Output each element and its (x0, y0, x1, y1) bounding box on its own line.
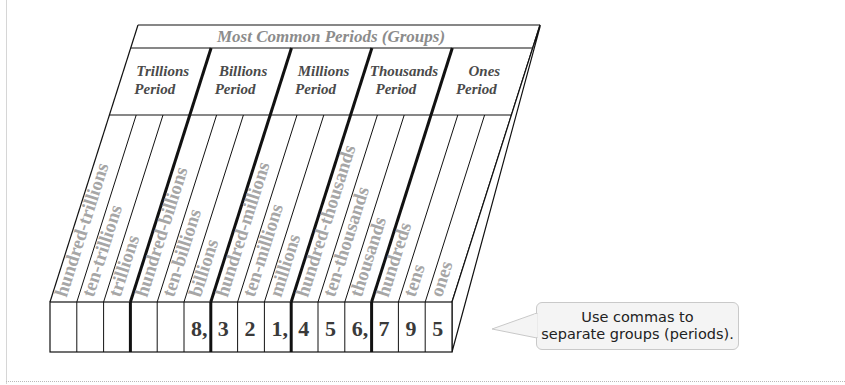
period-label: Millions (297, 63, 350, 79)
digit-cell: 7 (379, 316, 390, 341)
digit-cell: 4 (298, 316, 309, 341)
digit-cell: 6, (352, 316, 369, 341)
digit-cell: 3 (218, 316, 229, 341)
digit-cell: 1, (271, 316, 288, 341)
period-label: Period (376, 81, 417, 97)
digit-cell: 2 (245, 316, 256, 341)
period-label: Trillions (136, 63, 189, 79)
digit-cell: 8, (191, 316, 208, 341)
period-label: Ones (468, 63, 500, 79)
callout-box: Use commas to separate groups (periods). (536, 302, 739, 350)
digit-cell: 5 (325, 316, 336, 341)
period-label: Billions (218, 63, 268, 79)
period-label: Period (215, 81, 256, 97)
callout-pointer (490, 312, 540, 342)
callout-text: Use commas to separate groups (periods). (541, 309, 734, 343)
header-title: Most Common Periods (Groups) (216, 27, 445, 46)
digit-cell: 5 (432, 316, 443, 341)
period-label: Period (134, 81, 175, 97)
period-label: Thousands (370, 63, 439, 79)
digit-cell: 9 (405, 316, 416, 341)
period-label: Period (295, 81, 336, 97)
chart-root: Most Common Periods (Groups)TrillionsPer… (50, 25, 540, 352)
period-label: Period (456, 81, 497, 97)
